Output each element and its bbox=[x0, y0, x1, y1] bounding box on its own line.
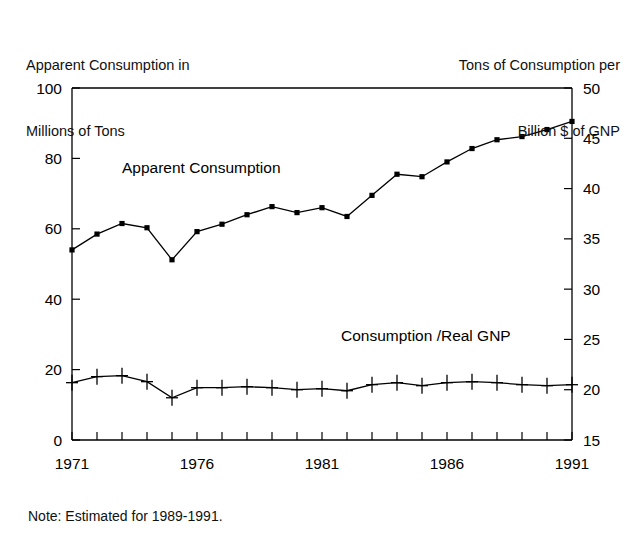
data-point-marker bbox=[216, 380, 228, 396]
data-point-marker bbox=[441, 375, 453, 391]
data-point-marker bbox=[169, 257, 174, 262]
x-axis-tick-label: 1971 bbox=[55, 455, 89, 472]
chart-note: Note: Estimated for 1989-1991. bbox=[28, 508, 223, 524]
data-point-marker bbox=[416, 378, 428, 394]
data-point-marker bbox=[344, 214, 349, 219]
left-axis-title-line2: Millions of Tons bbox=[26, 120, 190, 142]
data-point-marker bbox=[241, 379, 253, 395]
data-point-marker bbox=[144, 225, 149, 230]
data-point-marker bbox=[119, 221, 124, 226]
data-point-marker bbox=[69, 247, 74, 252]
left-axis-tick-label: 20 bbox=[45, 361, 63, 378]
data-point-marker bbox=[94, 231, 99, 236]
data-point-marker bbox=[366, 377, 378, 393]
right-axis-tick-label: 20 bbox=[583, 381, 601, 398]
data-point-marker bbox=[541, 378, 553, 394]
series-label-consumption-per-gnp: Consumption /Real GNP bbox=[341, 327, 511, 344]
right-axis-tick-label: 30 bbox=[583, 281, 601, 298]
data-point-marker bbox=[194, 229, 199, 234]
left-axis-tick-label: 60 bbox=[45, 220, 63, 237]
data-point-marker bbox=[444, 159, 449, 164]
data-point-marker bbox=[294, 210, 299, 215]
data-point-marker bbox=[391, 375, 403, 391]
right-axis-tick-label: 35 bbox=[583, 230, 600, 247]
data-point-marker bbox=[394, 172, 399, 177]
data-point-marker bbox=[341, 383, 353, 399]
x-axis-tick-label: 1991 bbox=[555, 455, 589, 472]
left-axis-title: Apparent Consumption in Millions of Tons bbox=[26, 10, 190, 186]
left-axis-tick-label: 40 bbox=[45, 291, 63, 308]
data-point-marker bbox=[516, 377, 528, 393]
data-point-marker bbox=[66, 375, 78, 391]
data-point-marker bbox=[269, 204, 274, 209]
right-axis-title-line1: Tons of Consumption per bbox=[459, 54, 620, 76]
x-axis-tick-label: 1986 bbox=[430, 455, 464, 472]
data-point-marker bbox=[266, 380, 278, 396]
data-point-marker bbox=[369, 193, 374, 198]
data-point-marker bbox=[141, 374, 153, 390]
data-point-marker bbox=[316, 381, 328, 397]
right-axis-tick-label: 15 bbox=[583, 432, 600, 449]
left-axis-title-line1: Apparent Consumption in bbox=[26, 54, 190, 76]
right-axis-title-line2: Billion $ of GNP bbox=[459, 120, 620, 142]
data-point-marker bbox=[319, 205, 324, 210]
data-point-marker bbox=[291, 382, 303, 398]
chart-figure: Apparent Consumption in Millions of Tons… bbox=[0, 0, 638, 537]
data-point-marker bbox=[219, 222, 224, 227]
data-point-marker bbox=[491, 375, 503, 391]
right-axis-tick-label: 25 bbox=[583, 331, 600, 348]
series-annotations: Apparent ConsumptionConsumption /Real GN… bbox=[122, 159, 511, 344]
x-axis-tick-label: 1981 bbox=[305, 455, 339, 472]
data-point-marker bbox=[116, 368, 128, 384]
data-point-marker bbox=[191, 380, 203, 396]
data-point-marker bbox=[244, 212, 249, 217]
data-point-marker bbox=[466, 374, 478, 390]
right-axis-title: Tons of Consumption per Billion $ of GNP bbox=[459, 10, 620, 186]
data-point-marker bbox=[166, 390, 178, 406]
x-axis-tick-label: 1976 bbox=[180, 455, 214, 472]
left-axis-tick-label: 0 bbox=[53, 432, 62, 449]
data-point-marker bbox=[419, 174, 424, 179]
data-point-marker bbox=[91, 369, 103, 385]
